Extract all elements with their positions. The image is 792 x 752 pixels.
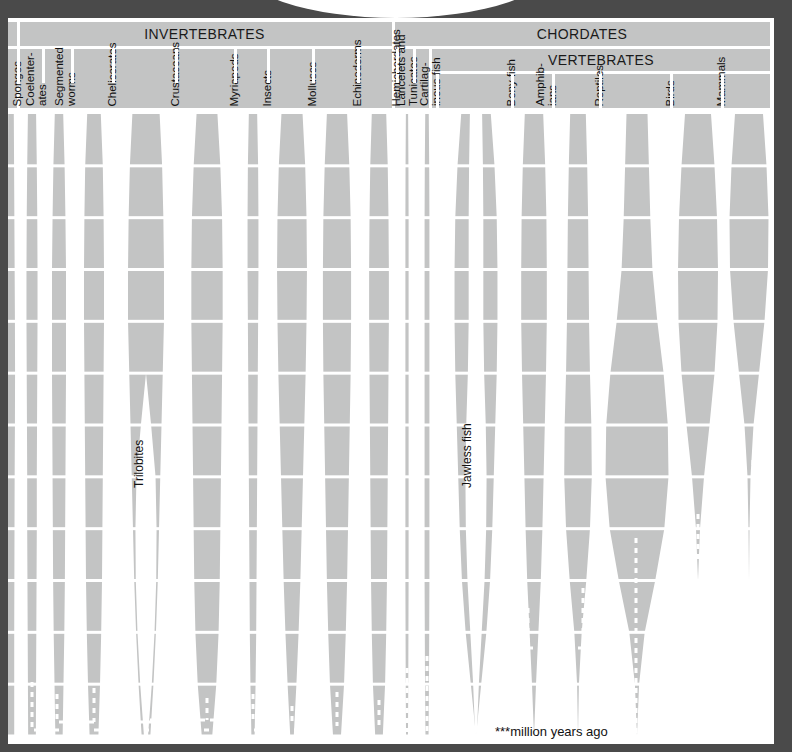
gridline-5 [8,372,774,375]
gridline-11 [8,683,774,686]
column-divider-amphibians [552,74,555,108]
spindle-bands [8,108,774,744]
million-years-ago-note: ***million years ago [495,724,608,739]
chart-body: TrilobitesJawless fish [8,108,774,744]
header-group-label: INVERTEBRATES [144,26,265,42]
body-right-rule [770,108,774,744]
gridline-8 [8,527,774,530]
body-bottom-rule [8,740,774,744]
column-divider-myriapods [234,49,237,83]
column-header-mammals: Mammals [724,74,774,108]
column-divider-echinoderms [357,49,360,83]
header-group-chordates: CHORDATES [394,22,770,46]
gridline-12 [8,735,774,738]
column-divider-insects [267,49,270,83]
gridline-4 [8,320,774,323]
column-divider-chelicerates [112,49,115,83]
header-top-rule [8,18,774,22]
column-divider-sponges [17,49,20,83]
body-left-rule [17,108,20,744]
column-divider-coelenterates [42,49,45,83]
chart-header: INVERTEBRATESCHORDATESVERTEBRATESPROTIST… [8,18,774,108]
header-group-invertebrates: INVERTEBRATES [17,22,392,46]
column-divider-crustaceans [175,49,178,83]
gridline-6 [8,424,774,427]
column-divider-reptiles [599,74,602,108]
gridline-2 [8,216,774,219]
column-divider-mammals [721,74,724,108]
gridline-9 [8,579,774,582]
column-divider-molluscs [312,49,315,83]
gridline-7 [8,475,774,478]
column-divider-bony-fish [511,74,514,108]
inline-label-jawless-fish: Jawless fish [460,423,474,488]
gridline-10 [8,631,774,634]
column-divider-cartilaginous-fish [436,74,439,108]
column-divider-lancelets-and-tunicates [413,49,416,83]
inline-label-trilobites: Trilobites [132,440,146,488]
page-curl-arc [236,0,556,18]
gridline-3 [8,268,774,271]
spindle-diagram: INVERTEBRATESCHORDATESVERTEBRATESPROTIST… [8,18,774,744]
column-divider-birds [670,74,673,108]
column-header-cartilaginous-fish: Cartilag- inous fish [439,74,513,108]
column-header-reptiles: Reptiles [602,74,672,108]
header-group-label: CHORDATES [537,26,627,42]
column-divider-segmented-worms [71,49,74,83]
gridline-1 [8,164,774,167]
